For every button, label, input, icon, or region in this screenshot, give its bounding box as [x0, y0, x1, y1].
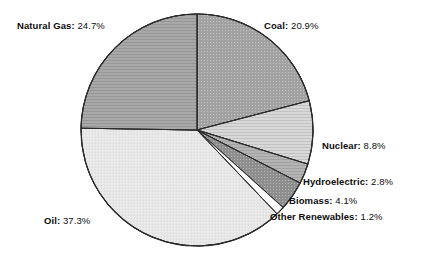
slice-label-natural-gas-key: Natural Gas:	[17, 20, 75, 31]
slice-label-hydroelectric-key: Hydroelectric:	[303, 176, 368, 187]
slice-label-other-renewables: Other Renewables: 1.2%	[270, 211, 383, 222]
pie-slice-texture	[81, 14, 197, 130]
slice-label-other-renewables-key: Other Renewables:	[270, 211, 358, 222]
slice-label-natural-gas-value: 24.7%	[77, 20, 104, 31]
slice-label-coal: Coal: 20.9%	[264, 20, 318, 31]
slice-label-natural-gas: Natural Gas: 24.7%	[17, 20, 105, 31]
slice-label-nuclear: Nuclear: 8.8%	[322, 140, 386, 151]
slice-label-oil-value: 37.3%	[63, 215, 90, 226]
slice-label-hydroelectric-value: 2.8%	[371, 176, 393, 187]
slice-label-coal-value: 20.9%	[291, 20, 318, 31]
slice-label-hydroelectric: Hydroelectric: 2.8%	[303, 176, 393, 187]
slice-label-coal-key: Coal:	[264, 20, 288, 31]
slice-label-nuclear-value: 8.8%	[364, 140, 386, 151]
slice-label-biomass-key: Biomass:	[289, 195, 333, 206]
slice-label-oil-key: Oil:	[44, 215, 60, 226]
slice-label-biomass-value: 4.1%	[335, 195, 357, 206]
slice-label-nuclear-key: Nuclear:	[322, 140, 361, 151]
slice-label-other-renewables-value: 1.2%	[361, 211, 383, 222]
slice-label-oil: Oil: 37.3%	[44, 215, 90, 226]
slice-label-biomass: Biomass: 4.1%	[289, 195, 357, 206]
pie-chart-figure: Natural Gas: 24.7% Coal: 20.9% Nuclear: …	[0, 0, 429, 260]
